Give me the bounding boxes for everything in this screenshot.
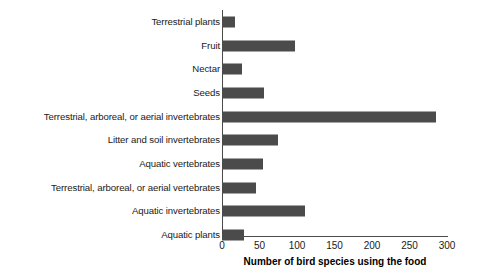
bar-category-label: Aquatic plants <box>161 230 220 240</box>
bar-category-label: Aquatic invertebrates <box>132 207 220 217</box>
x-tick-label: 100 <box>289 240 306 252</box>
bar-track <box>222 158 263 169</box>
bar-row: Aquatic vertebrates <box>0 152 477 176</box>
bar <box>222 64 242 75</box>
bar <box>222 135 278 146</box>
bar-row: Seeds <box>0 81 477 105</box>
x-tick-label: 300 <box>439 240 456 252</box>
bar-row: Fruit <box>0 34 477 58</box>
bar-category-label: Terrestrial, arboreal, or aerial inverte… <box>44 112 220 122</box>
x-axis-title: Number of bird species using the food <box>222 256 448 267</box>
y-axis-line <box>222 10 223 237</box>
bar-category-label: Terrestrial plants <box>151 17 220 27</box>
bar-track <box>222 87 264 98</box>
x-tick-label: 200 <box>364 240 381 252</box>
bar-row: Terrestrial, arboreal, or aerial vertebr… <box>0 176 477 200</box>
bar-row: Terrestrial plants <box>0 10 477 34</box>
bar-track <box>222 182 256 193</box>
bar-row: Nectar <box>0 57 477 81</box>
bar <box>222 87 264 98</box>
bar <box>222 206 305 217</box>
x-tick-label: 0 <box>219 240 225 252</box>
bar <box>222 16 235 27</box>
x-tick-label: 50 <box>254 240 265 252</box>
bar <box>222 40 295 51</box>
bar-category-label: Nectar <box>192 64 220 74</box>
x-axis-line <box>222 236 448 237</box>
bar <box>222 182 256 193</box>
bar <box>222 111 436 122</box>
bar-rows: Terrestrial plantsFruitNectarSeedsTerres… <box>0 10 477 247</box>
bar-track <box>222 40 295 51</box>
plot-area: Terrestrial plantsFruitNectarSeedsTerres… <box>0 0 477 238</box>
x-tick-label: 250 <box>401 240 418 252</box>
bar-category-label: Seeds <box>193 88 220 98</box>
bar-row: Terrestrial, arboreal, or aerial inverte… <box>0 105 477 129</box>
bar-row: Litter and soil invertebrates <box>0 128 477 152</box>
bar-category-label: Litter and soil invertebrates <box>108 135 220 145</box>
x-axis-tick-labels: 050100150200250300 <box>0 240 477 254</box>
bar <box>222 158 263 169</box>
x-tick-label: 150 <box>326 240 343 252</box>
bar-category-label: Aquatic vertebrates <box>139 159 220 169</box>
bar-category-label: Fruit <box>201 41 220 51</box>
bar-track <box>222 64 242 75</box>
bar-category-label: Terrestrial, arboreal, or aerial vertebr… <box>51 183 220 193</box>
bar-track <box>222 135 278 146</box>
bar-chart: Terrestrial plantsFruitNectarSeedsTerres… <box>0 0 477 278</box>
bar-row: Aquatic invertebrates <box>0 200 477 224</box>
bar-track <box>222 206 305 217</box>
bar-track <box>222 16 235 27</box>
bar-track <box>222 111 436 122</box>
